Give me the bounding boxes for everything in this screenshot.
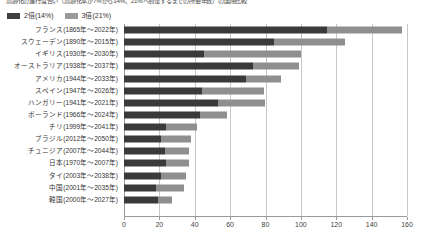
bar-segment-2x[interactable] [124, 39, 274, 46]
stacked-bar[interactable] [124, 124, 197, 131]
category-label: スウェーデン(1890年～2015年) [0, 38, 120, 46]
stacked-bar[interactable] [124, 184, 184, 191]
stacked-bar[interactable] [124, 99, 265, 106]
bar-row[interactable]: イギリス(1930年～2030年) [0, 48, 426, 60]
bar-segment-3x[interactable] [165, 148, 190, 155]
x-axis-labels: 020406080100120140160 [0, 220, 426, 232]
stacked-bar[interactable] [124, 39, 345, 46]
bar-segment-2x[interactable] [124, 172, 161, 179]
x-tick-label: 40 [191, 220, 199, 229]
category-label: ポーランド(1966年～2024年) [0, 111, 120, 119]
bar-segment-2x[interactable] [124, 111, 200, 118]
legend-label-3x: 3倍(21%) [82, 12, 112, 20]
bar-segment-3x[interactable] [200, 111, 227, 118]
bar-row[interactable]: チリ(1999年～2041年) [0, 121, 426, 133]
bar-segment-3x[interactable] [204, 51, 301, 58]
bar-row[interactable]: ブラジル(2012年～2050年) [0, 133, 426, 145]
legend-swatch-icon-3x [65, 13, 78, 19]
bar-segment-2x[interactable] [124, 160, 166, 167]
stacked-bar[interactable] [124, 51, 301, 58]
category-label: チリ(1999年～2041年) [0, 123, 120, 131]
bar-segment-3x[interactable] [166, 160, 189, 167]
legend-label-2x: 2倍(14%) [24, 12, 54, 20]
category-label: 韓国(2000年～2027年) [0, 196, 120, 204]
bar-segment-3x[interactable] [253, 63, 299, 70]
x-tick-label: 80 [262, 220, 270, 229]
bar-segment-3x[interactable] [202, 87, 264, 94]
bar-segment-2x[interactable] [124, 51, 204, 58]
category-label: オーストラリア(1938年～2037年) [0, 62, 120, 70]
bar-row[interactable]: 韓国(2000年～2027年) [0, 194, 426, 206]
bar-row[interactable]: チュニジア(2007年～2044年) [0, 145, 426, 157]
x-tick-label: 0 [122, 220, 126, 229]
category-label: タイ(2003年～2038年) [0, 172, 120, 180]
chart-title: 高齢化の進行度合い（高齢化率が7%から14%、21%へ到達するまでの所要年数）の… [6, 0, 416, 5]
bar-segment-2x[interactable] [124, 99, 218, 106]
bar-row[interactable]: フランス(1865年～2022年) [0, 24, 426, 36]
bar-segment-3x[interactable] [274, 39, 345, 46]
bar-segment-3x[interactable] [161, 136, 191, 143]
bar-row[interactable]: 中国(2001年～2035年) [0, 182, 426, 194]
bar-segment-3x[interactable] [327, 27, 401, 34]
category-label: 中国(2001年～2035年) [0, 184, 120, 192]
category-label: 日本(1970年～2007年) [0, 159, 120, 167]
chart-legend: 2倍(14%) 3倍(21%) [7, 10, 111, 21]
bar-segment-3x[interactable] [161, 172, 186, 179]
category-label: アメリカ(1944年～2033年) [0, 75, 120, 83]
bar-segment-2x[interactable] [124, 27, 327, 34]
x-tick-label: 60 [226, 220, 234, 229]
x-tick-label: 120 [330, 220, 342, 229]
stacked-bar[interactable] [124, 75, 281, 82]
bar-row[interactable]: オーストラリア(1938年～2037年) [0, 60, 426, 72]
legend-item-2x: 2倍(14%) [7, 12, 54, 20]
stacked-bar[interactable] [124, 136, 191, 143]
bar-segment-2x[interactable] [124, 75, 246, 82]
bar-segment-2x[interactable] [124, 63, 253, 70]
bar-row[interactable]: アメリカ(1944年～2033年) [0, 73, 426, 85]
stacked-bar[interactable] [124, 111, 227, 118]
stacked-bar[interactable] [124, 160, 189, 167]
x-tick-label: 160 [401, 220, 413, 229]
category-label: スペイン(1947年～2026年) [0, 87, 120, 95]
bar-row[interactable]: 日本(1970年～2007年) [0, 157, 426, 169]
legend-item-3x: 3倍(21%) [65, 12, 112, 20]
bar-segment-2x[interactable] [124, 196, 158, 203]
category-label: イギリス(1930年～2030年) [0, 50, 120, 58]
bar-row[interactable]: スウェーデン(1890年～2015年) [0, 36, 426, 48]
category-label: フランス(1865年～2022年) [0, 26, 120, 34]
bar-segment-2x[interactable] [124, 124, 166, 131]
bar-segment-2x[interactable] [124, 184, 156, 191]
bar-segment-2x[interactable] [124, 136, 161, 143]
bar-segment-3x[interactable] [158, 196, 172, 203]
chart-container: 高齢化の進行度合い（高齢化率が7%から14%、21%へ到達するまでの所要年数）の… [0, 0, 426, 239]
bar-segment-2x[interactable] [124, 87, 202, 94]
x-tick-label: 20 [155, 220, 163, 229]
legend-swatch-icon-2x [7, 13, 20, 19]
category-label: ブラジル(2012年～2050年) [0, 135, 120, 143]
stacked-bar[interactable] [124, 196, 172, 203]
bar-segment-2x[interactable] [124, 148, 165, 155]
stacked-bar[interactable] [124, 87, 264, 94]
x-tick-label: 100 [295, 220, 307, 229]
bar-rows: フランス(1865年～2022年)スウェーデン(1890年～2015年)イギリス… [0, 24, 426, 216]
bar-segment-3x[interactable] [218, 99, 266, 106]
bar-segment-3x[interactable] [166, 124, 196, 131]
bar-segment-3x[interactable] [246, 75, 281, 82]
plot-area: フランス(1865年～2022年)スウェーデン(1890年～2015年)イギリス… [0, 24, 426, 216]
bar-row[interactable]: タイ(2003年～2038年) [0, 170, 426, 182]
x-tick-label: 140 [366, 220, 378, 229]
stacked-bar[interactable] [124, 27, 402, 34]
bar-row[interactable]: スペイン(1947年～2026年) [0, 85, 426, 97]
category-label: ハンガリー(1941年～2021年) [0, 99, 120, 107]
stacked-bar[interactable] [124, 63, 299, 70]
bar-row[interactable]: ポーランド(1966年～2024年) [0, 109, 426, 121]
stacked-bar[interactable] [124, 148, 189, 155]
bar-segment-3x[interactable] [156, 184, 184, 191]
bar-row[interactable]: ハンガリー(1941年～2021年) [0, 97, 426, 109]
stacked-bar[interactable] [124, 172, 186, 179]
category-label: チュニジア(2007年～2044年) [0, 147, 120, 155]
